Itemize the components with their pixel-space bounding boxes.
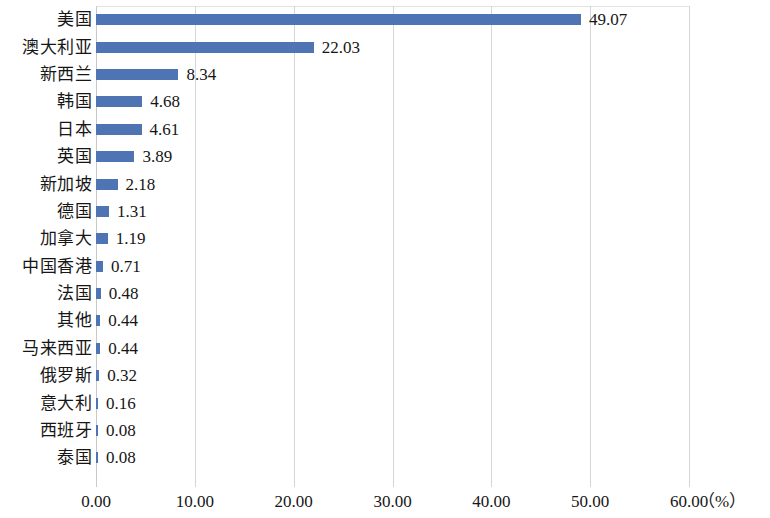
bar-container: 0.16 xyxy=(96,389,136,416)
category-label: 德国 xyxy=(0,203,92,220)
bar-value-label: 4.68 xyxy=(150,93,180,110)
bar-row: 韩国4.68 xyxy=(0,88,770,115)
x-tick-label: 20.00 xyxy=(275,493,313,510)
bar-value-label: 2.18 xyxy=(126,176,156,193)
bar[interactable] xyxy=(96,315,100,326)
category-label: 新加坡 xyxy=(0,176,92,193)
bar-row: 中国香港0.71 xyxy=(0,253,770,280)
bar-container: 0.32 xyxy=(96,362,137,389)
category-label: 马来西亚 xyxy=(0,340,92,357)
bar[interactable] xyxy=(96,124,142,135)
category-label: 加拿大 xyxy=(0,230,92,247)
bar-container: 4.61 xyxy=(96,116,179,143)
bar[interactable] xyxy=(96,42,314,53)
bar-value-label: 0.16 xyxy=(106,395,136,412)
category-label: 日本 xyxy=(0,121,92,138)
x-tick-label: 10.00 xyxy=(176,493,214,510)
category-label: 中国香港 xyxy=(0,258,92,275)
category-label: 新西兰 xyxy=(0,66,92,83)
bar-value-label: 22.03 xyxy=(322,39,360,56)
bar[interactable] xyxy=(96,151,134,162)
category-label: 泰国 xyxy=(0,449,92,466)
bar-value-label: 49.07 xyxy=(589,11,627,28)
bar-container: 0.44 xyxy=(96,307,138,334)
bar[interactable] xyxy=(96,425,98,436)
bar-row: 英国3.89 xyxy=(0,143,770,170)
bar-container: 3.89 xyxy=(96,143,172,170)
bar-value-label: 0.44 xyxy=(108,340,138,357)
bar[interactable] xyxy=(96,261,103,272)
category-label: 美国 xyxy=(0,11,92,28)
bar-container: 0.44 xyxy=(96,335,138,362)
x-tick-label: 60.00 xyxy=(670,493,708,510)
bar-row: 新西兰8.34 xyxy=(0,61,770,88)
bar-value-label: 3.89 xyxy=(142,148,172,165)
bar[interactable] xyxy=(96,370,99,381)
bar-row: 澳大利亚22.03 xyxy=(0,33,770,60)
bar-value-label: 0.08 xyxy=(106,449,136,466)
bar-value-label: 0.44 xyxy=(108,312,138,329)
bar-row: 西班牙0.08 xyxy=(0,417,770,444)
bar-container: 8.34 xyxy=(96,61,216,88)
bar[interactable] xyxy=(96,452,98,463)
bar-container: 0.48 xyxy=(96,280,138,307)
category-label: 英国 xyxy=(0,148,92,165)
x-tick-label: 0.00 xyxy=(81,493,111,510)
x-axis: （%） 0.0010.0020.0030.0040.0050.0060.00 xyxy=(0,489,770,518)
category-label: 西班牙 xyxy=(0,422,92,439)
bar-value-label: 0.32 xyxy=(107,367,137,384)
bar[interactable] xyxy=(96,96,142,107)
bar[interactable] xyxy=(96,288,101,299)
category-label: 澳大利亚 xyxy=(0,39,92,56)
x-tick-label: 50.00 xyxy=(571,493,609,510)
bar-container: 0.71 xyxy=(96,253,141,280)
bar[interactable] xyxy=(96,14,581,25)
bar-value-label: 1.31 xyxy=(117,203,147,220)
bar-row: 德国1.31 xyxy=(0,198,770,225)
bar-value-label: 8.34 xyxy=(186,66,216,83)
bar-row: 意大利0.16 xyxy=(0,389,770,416)
bar-row: 泰国0.08 xyxy=(0,444,770,471)
bar-value-label: 0.71 xyxy=(111,258,141,275)
bar-container: 49.07 xyxy=(96,6,627,33)
bar[interactable] xyxy=(96,233,108,244)
bar-row: 其他0.44 xyxy=(0,307,770,334)
bar-container: 22.03 xyxy=(96,33,360,60)
bar[interactable] xyxy=(96,179,118,190)
bar-container: 0.08 xyxy=(96,444,136,471)
bar-rows: 美国49.07澳大利亚22.03新西兰8.34韩国4.68日本4.61英国3.8… xyxy=(0,6,770,472)
category-label: 韩国 xyxy=(0,93,92,110)
bar-row: 马来西亚0.44 xyxy=(0,335,770,362)
category-label: 其他 xyxy=(0,312,92,329)
x-tick-label: 40.00 xyxy=(472,493,510,510)
category-label: 法国 xyxy=(0,285,92,302)
bar-row: 新加坡2.18 xyxy=(0,170,770,197)
bar-value-label: 4.61 xyxy=(150,121,180,138)
bar-row: 加拿大1.19 xyxy=(0,225,770,252)
bar-container: 1.19 xyxy=(96,225,146,252)
bar[interactable] xyxy=(96,206,109,217)
bar-container: 2.18 xyxy=(96,170,155,197)
bar-value-label: 1.19 xyxy=(116,230,146,247)
bar-row: 美国49.07 xyxy=(0,6,770,33)
horizontal-bar-chart: 美国49.07澳大利亚22.03新西兰8.34韩国4.68日本4.61英国3.8… xyxy=(0,0,770,518)
bar-container: 0.08 xyxy=(96,417,136,444)
category-label: 俄罗斯 xyxy=(0,367,92,384)
bar-row: 日本4.61 xyxy=(0,116,770,143)
bar-row: 法国0.48 xyxy=(0,280,770,307)
bar-container: 1.31 xyxy=(96,198,147,225)
category-label: 意大利 xyxy=(0,395,92,412)
bar-value-label: 0.08 xyxy=(106,422,136,439)
bar-container: 4.68 xyxy=(96,88,180,115)
bar[interactable] xyxy=(96,398,98,409)
bar-value-label: 0.48 xyxy=(109,285,139,302)
bar-row: 俄罗斯0.32 xyxy=(0,362,770,389)
bar[interactable] xyxy=(96,69,178,80)
bar[interactable] xyxy=(96,343,100,354)
x-tick-label: 30.00 xyxy=(373,493,411,510)
